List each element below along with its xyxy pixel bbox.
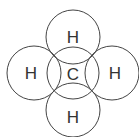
- atom-label-bottom: H: [67, 108, 79, 127]
- atom-label-top: H: [67, 28, 79, 47]
- atom-label-left: H: [25, 64, 37, 83]
- atom-label-right: H: [109, 64, 121, 83]
- methane-diagram: H H H H C: [0, 0, 139, 137]
- atom-label-center: C: [67, 65, 79, 84]
